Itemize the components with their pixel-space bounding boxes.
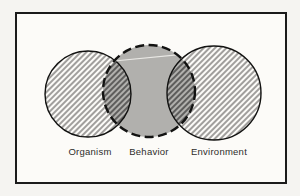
venn-diagram [0,0,300,196]
behavior-label: Behavior [129,146,169,157]
organism-label: Organism [68,146,111,157]
environment-label: Environment [191,146,247,157]
page-background: Organism Behavior Environment [0,0,300,196]
